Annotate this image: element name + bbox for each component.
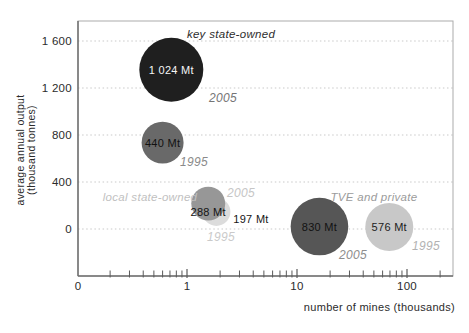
- year-label-tve-and-private-2005: 2005: [338, 248, 367, 262]
- year-label-key-state-owned-2005: 2005: [208, 91, 237, 105]
- bubble-label-local-state-owned-2005: 288 Mt: [191, 206, 226, 218]
- bubble-label-key-state-owned-2005: 1 024 Mt: [149, 64, 194, 76]
- x-tick-label-0: 0: [75, 280, 82, 292]
- y-tick-label-400: 400: [52, 176, 72, 188]
- bubble-label-local-state-owned-1995: 197 Mt: [233, 213, 268, 225]
- y-tick-label-1200: 1 200: [42, 82, 72, 94]
- year-label-local-state-owned-2005: 2005: [226, 186, 255, 200]
- x-axis-title: number of mines (thousands): [304, 301, 455, 313]
- y-tick-label-0: 0: [65, 223, 72, 235]
- year-label-key-state-owned-1995: 1995: [180, 155, 208, 169]
- x-tick-label-1: 1: [184, 280, 191, 292]
- group-label-local-state-owned: local state-owned: [103, 191, 198, 203]
- bubble-label-key-state-owned-1995: 440 Mt: [145, 137, 180, 149]
- x-tick-label-10: 10: [290, 280, 303, 292]
- y-tick-label-800: 800: [52, 129, 72, 141]
- bubble-chart: 011010004008001 2001 600number of mines …: [0, 0, 469, 333]
- y-tick-label-1600: 1 600: [42, 35, 72, 47]
- y-axis-title-line2: (thousand tonnes): [25, 105, 37, 195]
- bubble-label-tve-and-private-2005: 830 Mt: [302, 221, 337, 233]
- bubble-chart-figure: 011010004008001 2001 600number of mines …: [0, 0, 469, 333]
- bubble-label-tve-and-private-1995: 576 Mt: [372, 221, 407, 233]
- year-label-local-state-owned-1995: 1995: [207, 230, 235, 244]
- x-tick-label-100: 100: [397, 280, 417, 292]
- group-label-key-state-owned: key state-owned: [187, 28, 276, 40]
- group-label-tve-and-private: TVE and private: [331, 191, 418, 203]
- year-label-tve-and-private-1995: 1995: [412, 239, 440, 253]
